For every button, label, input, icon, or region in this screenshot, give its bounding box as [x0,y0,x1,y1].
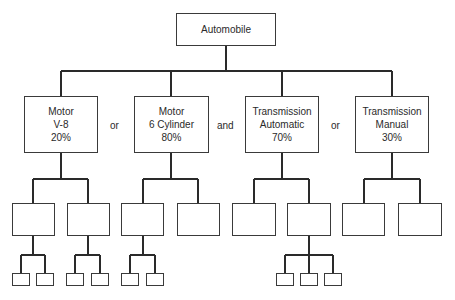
level3-node [324,273,342,286]
option-percent: 20% [51,131,71,144]
level3-node [300,273,318,286]
option-percent: 80% [161,131,181,144]
level2-node [121,203,164,236]
level3-node [121,273,139,286]
connector-or-1: or [110,120,119,131]
option-node-motor-v8: Motor V-8 20% [24,96,98,153]
option-line: Motor [48,105,74,118]
connector-and: and [217,120,234,131]
option-line: Transmission [252,105,311,118]
level2-node [232,203,276,236]
option-line: Transmission [362,105,421,118]
level3-node [146,273,164,286]
level3-node [276,273,294,286]
level3-node [91,273,109,286]
option-line: 6 Cylinder [149,118,194,131]
level2-node [342,203,385,236]
level2-node [177,203,220,236]
option-line: Motor [159,105,185,118]
option-percent: 30% [382,131,402,144]
option-line: Automatic [260,118,304,131]
level2-node [398,203,442,236]
option-line: V-8 [53,118,68,131]
option-percent: 70% [272,131,292,144]
root-node-automobile: Automobile [176,13,276,46]
option-node-motor-6cyl: Motor 6 Cylinder 80% [134,96,209,153]
option-node-transmission-manual: Transmission Manual 30% [355,96,429,153]
connector-or-2: or [331,120,340,131]
level3-node [66,273,84,286]
option-node-transmission-automatic: Transmission Automatic 70% [245,96,319,153]
level3-node [36,273,54,286]
level2-node [67,203,110,236]
level2-node [12,203,55,236]
root-label: Automobile [201,23,251,36]
level3-node [12,273,30,286]
level2-node [287,203,331,236]
option-line: Manual [376,118,409,131]
